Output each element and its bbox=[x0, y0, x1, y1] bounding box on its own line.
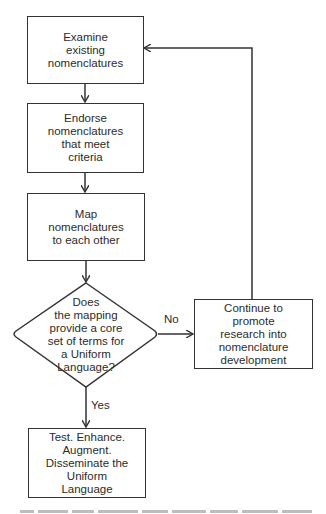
node-test-enhance-disseminate: Test. Enhance. Augment. Disseminate the … bbox=[28, 428, 146, 498]
edge-label-yes: Yes bbox=[91, 399, 110, 411]
decision-text: Does the mapping provide a core set of t… bbox=[26, 296, 146, 374]
cropped-caption-fragment bbox=[20, 508, 320, 514]
node-endorse-nomenclatures: Endorse nomenclatures that meet criteria bbox=[27, 103, 144, 173]
node-map-text: Map nomenclatures to each other bbox=[48, 208, 123, 247]
node-endorse-text: Endorse nomenclatures that meet criteria bbox=[48, 112, 123, 164]
node-examine-existing-nomenclatures: Examine existing nomenclatures bbox=[27, 16, 144, 84]
edge-label-no: No bbox=[164, 313, 179, 325]
node-continue-text: Continue to promote research into nomenc… bbox=[219, 302, 289, 367]
node-examine-text: Examine existing nomenclatures bbox=[48, 31, 123, 70]
flowchart: Examine existing nomenclatures Endorse n… bbox=[0, 0, 326, 514]
node-continue-research: Continue to promote research into nomenc… bbox=[194, 299, 313, 369]
node-test-text: Test. Enhance. Augment. Disseminate the … bbox=[46, 431, 128, 496]
arrow-continue-to-examine bbox=[144, 48, 252, 299]
node-map-nomenclatures: Map nomenclatures to each other bbox=[27, 193, 145, 261]
